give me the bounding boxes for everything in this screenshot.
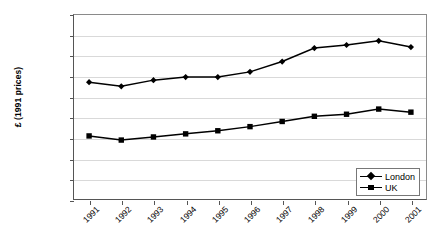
x-tick-mark: [412, 201, 413, 205]
x-tick-mark: [315, 201, 316, 205]
gridline: [74, 118, 426, 119]
y-tick-mark: [70, 98, 74, 99]
y-tick-mark: [70, 77, 74, 78]
diamond-marker-icon: [360, 171, 382, 182]
x-tick-mark: [251, 201, 252, 205]
y-tick-mark: [70, 36, 74, 37]
x-tick-mark: [348, 201, 349, 205]
gridline: [74, 77, 426, 78]
legend-item-uk: UK: [360, 182, 415, 193]
legend-label: UK: [385, 183, 398, 193]
x-tick-mark: [154, 201, 155, 205]
y-tick-mark: [70, 56, 74, 57]
y-tick-mark: [70, 139, 74, 140]
y-tick-mark: [70, 118, 74, 119]
gridline: [74, 160, 426, 161]
legend-label: London: [385, 172, 415, 182]
x-tick-mark: [283, 201, 284, 205]
y-tick-mark: [70, 15, 74, 16]
chart-legend: LondonUK: [356, 168, 420, 196]
square-marker-icon: [360, 182, 382, 193]
gridline: [74, 139, 426, 140]
y-tick-mark: [70, 201, 74, 202]
x-tick-mark: [187, 201, 188, 205]
x-tick-mark: [90, 201, 91, 205]
legend-item-london: London: [360, 171, 415, 182]
y-tick-mark: [70, 180, 74, 181]
gridline: [74, 36, 426, 37]
x-tick-label: 1999: [321, 205, 358, 242]
y-axis-title: £ (1991 prices): [13, 32, 23, 162]
y-tick-mark: [70, 160, 74, 161]
gridline: [74, 56, 426, 57]
line-chart: £ (1991 prices) 600070008000900010000110…: [0, 0, 440, 247]
x-tick-mark: [122, 201, 123, 205]
diamond-glyph: [367, 172, 375, 180]
square-glyph: [368, 185, 374, 191]
x-tick-label: 1994: [161, 205, 198, 242]
x-tick-label: 1993: [128, 205, 165, 242]
x-tick-mark: [380, 201, 381, 205]
x-tick-label: 1998: [289, 205, 326, 242]
gridline: [74, 98, 426, 99]
x-tick-mark: [219, 201, 220, 205]
